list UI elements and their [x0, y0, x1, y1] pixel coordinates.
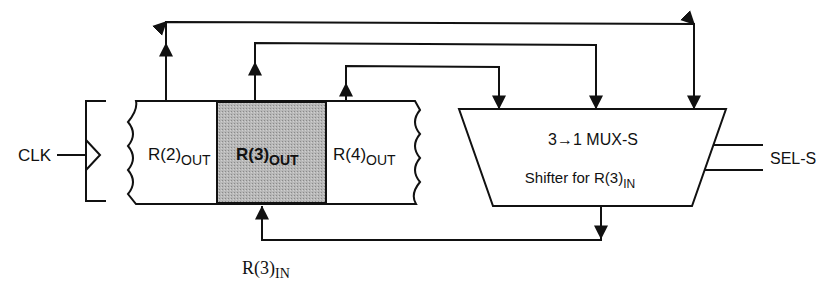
r2-label: R(2): [148, 145, 181, 164]
r3-in-label-sub: IN: [275, 266, 290, 281]
svg-text:R(2)OUT: R(2)OUT: [148, 145, 211, 168]
clock-edge-triangle-icon: [86, 140, 100, 170]
wire-mux-to-r3: [262, 206, 601, 240]
mux-trapezoid: [459, 109, 726, 206]
select-input: SEL-S: [705, 145, 816, 170]
mux-subtitle-sub: IN: [623, 177, 635, 191]
register-to-mux-wires: [166, 22, 694, 108]
r4-label-sub: OUT: [366, 152, 396, 168]
svg-text:R(4)OUT: R(4)OUT: [333, 145, 396, 168]
shift-register-diagram: CLK R(2)OUT R(3)OUT R(4)OUT: [0, 0, 836, 291]
mux-shifter: 3→1 MUX-S Shifter for R(3)IN: [459, 109, 726, 206]
r3-in-label: R(3): [242, 258, 275, 279]
r2-label-sub: OUT: [181, 152, 211, 168]
register-r2: R(2)OUT: [148, 145, 211, 168]
clock-input: CLK: [18, 101, 106, 201]
r4-label: R(4): [333, 145, 366, 164]
feedback-loop: R(3)IN: [242, 206, 601, 281]
mux-title: 3→1 MUX-S: [548, 131, 638, 148]
sel-label: SEL-S: [770, 150, 816, 167]
register-bank: R(2)OUT R(3)OUT R(4)OUT: [128, 101, 420, 204]
wire-r2-to-mux: [166, 22, 694, 107]
register-r4: R(4)OUT: [333, 145, 396, 168]
mux-subtitle: Shifter for R(3): [525, 169, 623, 186]
wire-r3-to-mux: [255, 43, 596, 107]
clk-label: CLK: [18, 146, 52, 165]
r3-label-sub: OUT: [269, 152, 299, 168]
r3-label: R(3): [236, 145, 269, 164]
svg-text:R(3)IN: R(3)IN: [242, 258, 290, 281]
